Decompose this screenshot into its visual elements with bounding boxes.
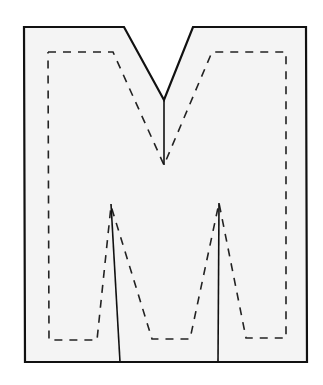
diagram-svg	[0, 0, 323, 385]
m-template-diagram: Letter M cut-out template	[0, 0, 323, 385]
letter-m-outline	[24, 27, 307, 362]
cut-line-right	[218, 203, 219, 362]
